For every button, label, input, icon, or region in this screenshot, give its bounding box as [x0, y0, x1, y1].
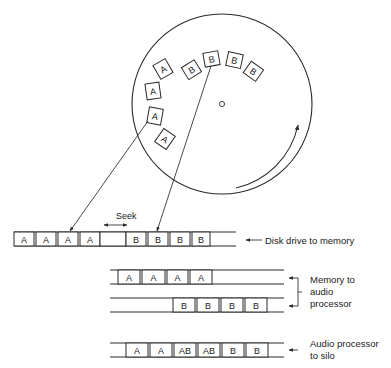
svg-text:A: A — [174, 273, 180, 283]
row-disk-to-memory: A A A A B B B B Disk drive to memory — [14, 232, 354, 246]
seek-label: Seek — [116, 211, 137, 221]
disk-platter — [132, 14, 312, 194]
row-memory-to-audio-a: A A A A — [110, 270, 284, 284]
svg-text:A: A — [65, 235, 71, 245]
row-memory-to-audio-b: B B B B — [110, 298, 284, 312]
svg-text:B: B — [181, 301, 187, 311]
data-flow-diagram: A A A A B B B B — [0, 0, 391, 368]
spindle-hole — [219, 101, 224, 106]
row-label-line: audio — [310, 286, 333, 297]
row-label-line: Audio processor — [310, 338, 379, 349]
svg-text:B: B — [177, 235, 183, 245]
disk-sectors-a: A A A A — [145, 59, 175, 150]
disk-sector-b: B — [226, 52, 244, 69]
rotation-arrow-icon — [236, 125, 298, 188]
disk-sector-a: A — [147, 107, 164, 125]
svg-text:AB: AB — [203, 346, 215, 356]
svg-text:A: A — [158, 346, 164, 356]
svg-text:A: A — [134, 346, 140, 356]
svg-text:B: B — [229, 301, 235, 311]
svg-text:B: B — [198, 235, 204, 245]
row-label-line: to silo — [310, 350, 335, 361]
svg-text:A: A — [43, 235, 49, 245]
svg-text:B: B — [133, 235, 139, 245]
svg-text:B: B — [254, 346, 260, 356]
svg-text:A: A — [126, 273, 132, 283]
disk-sector-a: A — [153, 59, 173, 80]
svg-text:AB: AB — [179, 346, 191, 356]
disk-sector-b: B — [243, 61, 263, 81]
svg-text:B: B — [230, 346, 236, 356]
svg-text:B: B — [253, 301, 259, 311]
svg-text:B: B — [155, 235, 161, 245]
disk-sectors-b: B B B B — [181, 51, 263, 82]
memory-bracket — [289, 278, 302, 306]
row-label-line: Memory to — [310, 274, 355, 285]
row-audio-to-silo: A A AB AB B B — [110, 343, 298, 357]
svg-text:A: A — [198, 273, 204, 283]
disk-sector-a: A — [155, 128, 176, 149]
row-label-line: processor — [310, 298, 352, 309]
svg-text:A: A — [21, 235, 27, 245]
svg-text:B: B — [205, 301, 211, 311]
disk-sector-b: B — [203, 51, 220, 67]
disk-sector-b: B — [181, 60, 201, 80]
row-label: Disk drive to memory — [265, 235, 354, 246]
svg-text:A: A — [87, 235, 93, 245]
svg-text:A: A — [150, 273, 156, 283]
disk-sector-a: A — [145, 82, 161, 100]
